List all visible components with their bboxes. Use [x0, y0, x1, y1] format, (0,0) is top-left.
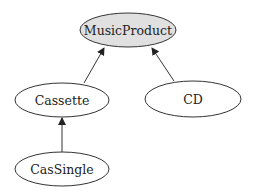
- node-label-cd: CD: [183, 92, 203, 107]
- node-musicproduct[interactable]: MusicProduct: [80, 13, 176, 47]
- node-cassingle[interactable]: CasSingle: [15, 152, 109, 186]
- edge-cassette-to-musicproduct: [84, 48, 104, 83]
- node-cassette[interactable]: Cassette: [15, 83, 109, 117]
- edge-cd-to-musicproduct: [152, 48, 174, 81]
- node-label-musicproduct: MusicProduct: [84, 23, 172, 38]
- inheritance-diagram: MusicProduct Cassette CD CasSingle: [0, 0, 261, 190]
- node-label-cassette: Cassette: [35, 93, 90, 108]
- node-label-cassingle: CasSingle: [30, 162, 93, 177]
- node-cd[interactable]: CD: [145, 81, 241, 117]
